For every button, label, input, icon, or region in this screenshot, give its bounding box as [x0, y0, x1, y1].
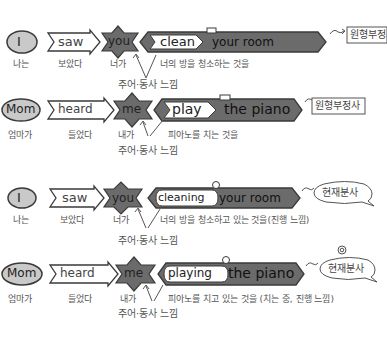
tag-label: 원형부정사 [350, 30, 387, 40]
tag-connector [306, 263, 318, 266]
ko-subject: 엄마가 [8, 295, 32, 304]
relation-note: 주어·동사 느낌 [118, 146, 178, 156]
ko-complement: 너의 방을 청소하는 것을 [160, 60, 249, 69]
complement-word: playing [168, 267, 212, 279]
verb-word: heard [58, 103, 93, 115]
example-row-3: I saw you cleaning your room 현재분사 나는 보았다… [0, 180, 387, 255]
tag-label: 원형부정사 [315, 101, 360, 111]
tag-label: 현재분사 [328, 264, 364, 274]
subject-word: I [17, 191, 21, 204]
relation-note: 주어·동사 느낌 [118, 236, 178, 246]
ko-object: 내가 [118, 131, 134, 140]
ko-subject: 나는 [13, 60, 29, 69]
ko-verb: 보았다 [58, 60, 82, 69]
rest-words: your room [219, 192, 281, 204]
complement-word: clean [160, 35, 195, 48]
frame-knob [223, 257, 230, 264]
ko-object: 너가 [113, 216, 129, 225]
ko-complement: 피아노를 치고 있는 것을 (치는 중, 진행 느낌) [168, 295, 334, 304]
complement-word: play [172, 102, 202, 116]
example-row-1: I saw you clean your room 원형부정사 나는 보았다 너… [0, 0, 387, 90]
relation-arrow-left [138, 209, 146, 228]
relation-arrow-right [150, 120, 163, 136]
relation-arrow-right [148, 209, 160, 228]
relation-arrow-left [136, 55, 146, 78]
object-word: me [124, 267, 143, 279]
relation-arrow-right [154, 285, 163, 301]
verb-word: saw [58, 35, 83, 48]
ko-complement: 너의 방을 청소하고 있는 것을(진행 느낌) [160, 216, 309, 225]
subject-oval [8, 188, 36, 208]
ko-subject: 엄마가 [8, 131, 32, 140]
example-row-2: Mom heard me play the piano 원형부정사 엄마가 들었… [0, 90, 387, 170]
verb-word: heard [60, 267, 95, 279]
object-word: me [122, 103, 141, 115]
verb-word: saw [62, 191, 87, 204]
subject-word: Mom [7, 267, 36, 279]
ko-verb: 들었다 [68, 295, 92, 304]
complement-word: cleaning [158, 192, 205, 203]
object-word: you [108, 35, 130, 47]
example-row-4: Mom heard me playing the piano 현재분사 엄마가 … [0, 255, 387, 337]
rest-words: the piano [224, 102, 290, 116]
frame-tab [220, 95, 230, 100]
ko-verb: 들었다 [68, 131, 92, 140]
rest-words: your room [212, 36, 274, 48]
rest-words: the piano [228, 266, 294, 280]
ko-object: 너가 [110, 60, 126, 69]
frame-knob [213, 182, 220, 189]
ko-subject: 나는 [13, 216, 29, 225]
relation-note: 주어·동사 느낌 [118, 80, 178, 90]
ko-verb: 보았다 [60, 216, 84, 225]
tag-label: 현재분사 [322, 188, 358, 198]
ko-complement: 피아노를 치는 것을 [168, 131, 238, 140]
subject-word: I [17, 35, 21, 48]
object-word: you [112, 192, 134, 204]
relation-arrow-right [146, 55, 156, 78]
subject-word: Mom [6, 103, 35, 115]
tag-connector [302, 188, 314, 191]
ko-object: 내가 [120, 295, 136, 304]
frame-tab [207, 28, 216, 33]
relation-note: 주어·동사 느낌 [118, 309, 178, 319]
subject-oval [7, 31, 37, 53]
